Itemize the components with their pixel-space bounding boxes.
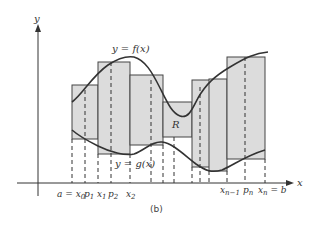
tick-pn: pn (243, 185, 254, 197)
tick-xn-1: xn−1 (220, 185, 240, 197)
region-label: R (171, 119, 180, 130)
tick-xn-b: xn = b (258, 185, 287, 197)
lower-curve-label: y = g(x) (114, 158, 155, 169)
upper-curve-label: y = f(x) (111, 43, 150, 54)
approximating-rectangles (72, 57, 265, 171)
figure-caption: (b) (150, 204, 163, 214)
rectangle-7 (227, 57, 265, 159)
tick-p1: p1 (84, 189, 94, 201)
tick-x1: x1 (97, 189, 107, 201)
rectangle-6 (209, 79, 227, 171)
y-axis-label: y (33, 13, 40, 24)
area-between-curves-figure: y x y = f(x) y = g(x) R a = x0 p1 x1 p2 … (0, 0, 312, 225)
x-tick-labels: a = x0 p1 x1 p2 x2 xn−1 pn xn = b (57, 185, 287, 201)
tick-x2: x2 (126, 189, 136, 201)
rectangle-2 (98, 62, 130, 154)
tick-a-x0: a = x0 (57, 189, 86, 201)
diagram-canvas: y x y = f(x) y = g(x) R a = x0 p1 x1 p2 … (0, 0, 312, 225)
x-axis-arrow-icon (286, 180, 294, 186)
tick-p2: p2 (108, 189, 119, 201)
x-axis-label: x (297, 177, 303, 188)
y-axis-arrow-icon (35, 24, 41, 32)
